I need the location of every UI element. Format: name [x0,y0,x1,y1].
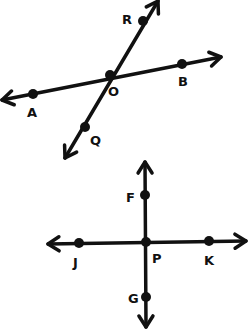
point-label-B: B [178,74,188,89]
point-F [140,190,150,200]
point-label-F: F [126,190,135,205]
point-label-G: G [128,291,139,306]
point-J [74,238,84,248]
point-Q [80,122,90,132]
point-label-O: O [108,84,119,99]
labels-layer: ROBAQFPJKG [27,12,215,306]
point-label-K: K [204,253,215,268]
point-G [141,292,151,302]
point-A [28,89,38,99]
point-label-P: P [152,251,162,266]
point-K [204,236,214,246]
points-layer [28,16,214,302]
point-label-J: J [72,255,78,270]
lines-layer [2,1,246,327]
point-label-R: R [122,12,132,27]
point-R [138,16,148,26]
point-B [177,59,187,69]
point-label-A: A [27,105,37,120]
point-P [141,237,151,247]
point-O [105,70,115,80]
point-label-Q: Q [90,133,101,148]
geometry-diagram: ROBAQFPJKG [0,0,249,330]
